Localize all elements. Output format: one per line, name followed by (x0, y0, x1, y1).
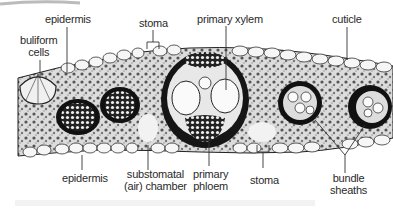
minor-vascular-bundle-right-2 (348, 85, 392, 129)
substomatal-chamber (138, 114, 158, 142)
xylem-vessel-right (211, 79, 239, 113)
label-cuticle: cuticle (332, 13, 362, 25)
label-bundle-line2: sheaths (330, 184, 367, 196)
label-bundle-sheaths: bundle sheaths (330, 172, 367, 196)
label-substomatal-chamber: substomatal (air) chamber (124, 168, 187, 192)
image-edge-remnant (0, 2, 80, 4)
main-vascular-bundle (161, 52, 249, 148)
leaf-cross-section-diagram: epidermis buliform cells stoma primary x… (0, 0, 393, 209)
label-substomatal-line1: substomatal (124, 168, 187, 180)
label-buliform-line1: buliform (20, 34, 58, 46)
label-bundle-line1: bundle (330, 172, 367, 184)
label-epidermis-top: epidermis (45, 13, 91, 25)
label-phloem-line1: primary (193, 168, 228, 180)
label-epidermis-bottom: epidermis (62, 172, 108, 184)
xylem-vessel-left (172, 81, 200, 115)
label-buliform-line2: cells (20, 46, 58, 58)
label-phloem-line2: phloem (193, 180, 228, 192)
label-primary-xylem: primary xylem (197, 13, 263, 25)
label-stoma-bottom: stoma (250, 174, 279, 186)
minor-vascular-bundle-right-1 (278, 81, 322, 125)
label-stoma-top: stoma (139, 17, 168, 29)
label-buliform-cells: buliform cells (20, 34, 58, 58)
label-primary-phloem: primary phloem (193, 168, 228, 192)
label-substomatal-line2: (air) chamber (124, 180, 187, 192)
